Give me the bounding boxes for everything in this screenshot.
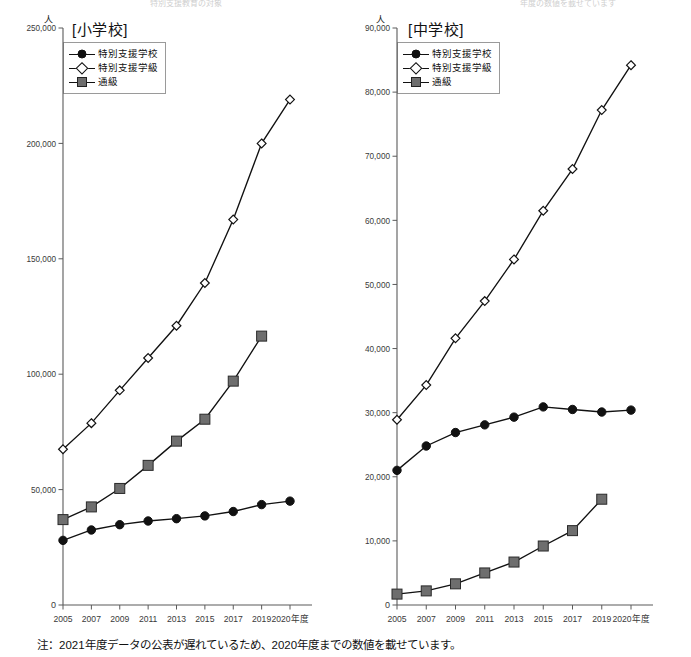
- y-tick-label: 150,000: [26, 255, 56, 264]
- data-point-circle: [510, 413, 518, 421]
- data-point-square: [480, 568, 490, 578]
- data-point-square: [115, 483, 125, 493]
- y-tick-label: 0: [385, 600, 390, 610]
- x-tick-label: 2013: [504, 614, 523, 624]
- data-point-circle: [286, 497, 294, 505]
- data-point-circle: [451, 428, 459, 436]
- x-tick-label: 2019: [592, 614, 611, 624]
- x-tick-label: 2007: [82, 614, 101, 624]
- data-point-circle: [59, 536, 67, 544]
- y-tick-label: 50,000: [31, 486, 56, 495]
- x-tick-label: 2013: [167, 614, 186, 624]
- data-point-diamond: [539, 206, 548, 215]
- chart-footnote: 注：2021年度データの公表が遅れているため、2020年度までの数値を載せていま…: [37, 636, 461, 652]
- x-tick-label: 2017: [563, 614, 582, 624]
- data-point-diamond: [229, 215, 238, 224]
- data-point-diamond: [568, 165, 577, 174]
- x-tick-label: 2011: [139, 614, 158, 624]
- y-tick-label: 10,000: [365, 537, 390, 546]
- x-tick-label: 2017: [224, 614, 243, 624]
- data-point-square: [597, 494, 607, 504]
- y-tick-label: 100,000: [26, 370, 56, 379]
- data-point-circle: [393, 466, 401, 474]
- data-point-square: [568, 526, 578, 536]
- data-point-square: [421, 586, 431, 596]
- x-tick-label: 2005: [387, 614, 406, 624]
- x-tick-label: 2020年度: [612, 613, 649, 624]
- data-point-circle: [598, 408, 606, 416]
- x-tick-label: 2015: [195, 614, 214, 624]
- x-tick-label: 2019: [252, 614, 271, 624]
- data-point-diamond: [597, 106, 606, 115]
- x-tick-label: 2009: [110, 614, 129, 624]
- data-point-circle: [257, 500, 265, 508]
- data-point-diamond: [286, 95, 295, 104]
- data-point-circle: [627, 406, 635, 414]
- data-point-circle: [116, 520, 124, 528]
- data-point-diamond: [257, 139, 266, 148]
- y-tick-label: 30,000: [365, 409, 390, 418]
- data-point-circle: [201, 512, 209, 520]
- data-point-circle: [229, 507, 237, 515]
- top-bleed-text: 特別支援教育の対象 年度の数値を載せています: [0, 0, 691, 10]
- y-tick-label: 70,000: [365, 152, 390, 161]
- data-point-square: [257, 331, 267, 341]
- plot-area-juniorhigh: 010,00020,00030,00040,00050,00060,00070,…: [348, 10, 691, 630]
- data-point-circle: [87, 526, 95, 534]
- y-tick-label: 40,000: [365, 345, 390, 354]
- data-point-square: [509, 557, 519, 567]
- y-tick-label: 20,000: [365, 473, 390, 482]
- data-point-circle: [539, 403, 547, 411]
- y-tick-label: 250,000: [26, 24, 56, 33]
- data-point-square: [538, 541, 548, 551]
- data-point-square: [58, 515, 68, 525]
- data-point-circle: [172, 514, 180, 522]
- data-point-square: [143, 460, 153, 470]
- x-tick-label: 2007: [417, 614, 436, 624]
- y-tick-label: 200,000: [26, 140, 56, 149]
- top-bleed-right: 年度の数値を載せています: [520, 0, 616, 8]
- y-tick-label: 80,000: [365, 88, 390, 97]
- x-tick-label: 2009: [446, 614, 465, 624]
- plot-area-elementary: 050,000100,000150,000200,000250,00020052…: [0, 10, 350, 630]
- data-point-square: [451, 579, 461, 589]
- y-tick-label: 0: [51, 600, 56, 610]
- data-point-circle: [568, 405, 576, 413]
- data-point-square: [200, 414, 210, 424]
- data-point-diamond: [200, 279, 209, 288]
- x-tick-label: 2011: [476, 614, 495, 624]
- x-tick-label: 2015: [534, 614, 553, 624]
- figure-container: 特別支援教育の対象 年度の数値を載せています 人 [小学校] 特別支援学校 特別…: [0, 0, 691, 657]
- y-tick-label: 60,000: [365, 217, 390, 226]
- data-point-circle: [481, 421, 489, 429]
- data-point-square: [172, 436, 182, 446]
- y-tick-label: 50,000: [365, 281, 390, 290]
- data-point-square: [86, 502, 96, 512]
- x-tick-label: 2020年度: [271, 613, 308, 624]
- data-point-circle: [422, 442, 430, 450]
- data-point-square: [228, 376, 238, 386]
- top-bleed-left: 特別支援教育の対象: [150, 0, 222, 8]
- x-tick-label: 2005: [53, 614, 72, 624]
- data-point-diamond: [510, 255, 519, 264]
- data-point-circle: [144, 517, 152, 525]
- chart-panel-elementary: 人 [小学校] 特別支援学校 特別支援学級 通級 05: [0, 10, 350, 630]
- y-tick-label: 90,000: [365, 24, 390, 33]
- data-point-square: [392, 589, 402, 599]
- chart-panel-juniorhigh: 人 [中学校] 特別支援学校 特別支援学級 通級 01: [348, 10, 691, 630]
- data-point-diamond: [627, 61, 636, 70]
